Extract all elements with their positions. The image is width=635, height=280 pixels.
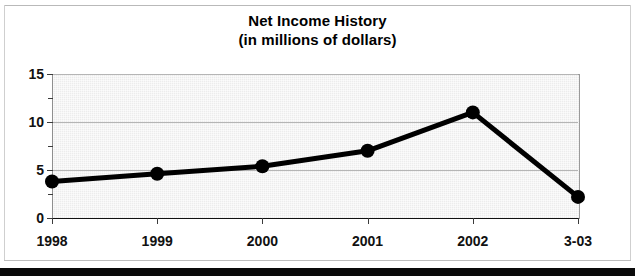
page-bottom-rule	[0, 268, 635, 276]
data-point-marker	[571, 190, 585, 204]
data-point-marker	[150, 167, 164, 181]
data-series-line	[0, 0, 635, 280]
plot-region: 051015 199819992000200120023-03	[0, 0, 635, 280]
data-point-marker	[361, 144, 375, 158]
data-point-marker	[466, 105, 480, 119]
data-point-marker	[45, 175, 59, 189]
data-point-marker	[255, 159, 269, 173]
chart-figure: Net Income History (in millions of dolla…	[0, 0, 635, 280]
